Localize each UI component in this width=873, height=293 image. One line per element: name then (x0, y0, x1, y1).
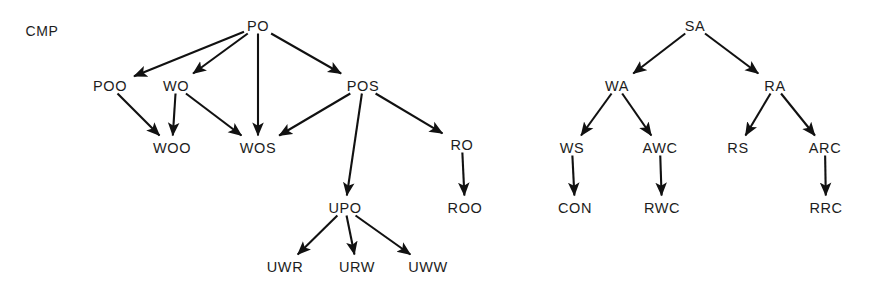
graph-node-ro: RO (451, 138, 474, 153)
graph-node-wa: WA (605, 79, 629, 94)
graph-edge-ra-to-arc (781, 94, 815, 136)
graph-node-uwr: UWR (267, 260, 303, 275)
graph-node-rwc: RWC (644, 201, 680, 216)
graph-node-arc: ARC (809, 141, 841, 156)
graph-node-roo: ROO (448, 201, 483, 216)
graph-node-poo: POO (93, 79, 127, 94)
graph-edge-wo-to-woo (173, 94, 176, 136)
graph-node-po: PO (247, 19, 269, 34)
graph-edge-pos-to-ro (376, 94, 443, 134)
graph-edge-awc-to-rwc (660, 156, 661, 196)
graph-edge-pos-to-wos (279, 94, 350, 136)
graph-node-ra: RA (764, 79, 785, 94)
graph-edge-sa-to-wa (633, 34, 685, 74)
graph-node-ws: WS (560, 141, 585, 156)
graph-node-urw: URW (339, 260, 375, 275)
graph-node-rrc: RRC (809, 201, 842, 216)
graph-node-rs: RS (727, 141, 748, 156)
graph-edge-sa-to-ra (705, 34, 758, 74)
graph-edge-ws-to-con (572, 156, 574, 196)
graph-edge-upo-to-uwr (298, 216, 338, 255)
graph-node-woo: WOO (153, 141, 191, 156)
graph-edge-po-to-wo (193, 34, 248, 74)
graph-node-upo: UPO (328, 201, 361, 216)
graph-edge-upo-to-uww (356, 216, 411, 255)
graph-edge-ra-to-rs (745, 94, 770, 136)
graph-node-con: CON (558, 201, 592, 216)
graph-edge-wa-to-awc (622, 94, 651, 136)
graph-node-pos: POS (347, 79, 379, 94)
graph-edge-poo-to-woo (118, 94, 160, 136)
graph-edge-wo-to-wos (186, 94, 242, 136)
diagram-caption: CMP (26, 24, 59, 38)
graph-edge-ro-to-roo (462, 153, 464, 196)
graph-node-awc: AWC (642, 141, 677, 156)
diagram-canvas: CMP POPOOWOPOSWOOWOSROUPOROOUWRURWUWWSAW… (0, 0, 873, 293)
graph-node-wo: WO (163, 79, 189, 94)
graph-node-wos: WOS (240, 141, 276, 156)
graph-edge-po-to-pos (271, 34, 341, 74)
graph-node-uww: UWW (408, 260, 448, 275)
graph-edge-arc-to-rrc (825, 156, 826, 196)
graph-edge-upo-to-urw (347, 216, 355, 255)
graph-edge-po-to-poo (134, 32, 244, 77)
graph-edge-wa-to-ws (581, 94, 611, 136)
graph-node-sa: SA (685, 19, 706, 34)
graph-edge-pos-to-upo (347, 94, 362, 196)
